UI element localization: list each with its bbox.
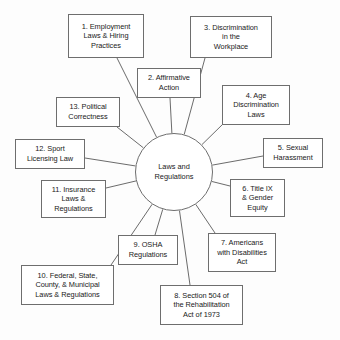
connector-line-5	[212, 156, 263, 165]
connector-line-6	[212, 181, 230, 186]
node-box-8[interactable]: 8. Section 504 of the Rehabilitation Act…	[160, 285, 243, 325]
node-box-7[interactable]: 7. Americans with Disabilities Act	[208, 233, 276, 272]
node-box-4[interactable]: 4. Age Discrimination Laws	[222, 85, 290, 125]
connector-line-7	[196, 204, 215, 233]
connector-line-8	[179, 211, 190, 285]
connector-line-13	[117, 127, 143, 148]
connector-line-2	[170, 98, 172, 133]
node-box-11[interactable]: 11. Insurance Laws & Regulations	[41, 180, 106, 218]
connector-line-9	[155, 209, 163, 235]
node-box-9[interactable]: 9. OSHA Regulations	[118, 235, 178, 265]
hub-node-laws-and-regulations[interactable]: Laws and Regulations	[135, 133, 213, 211]
connector-line-4	[202, 123, 224, 145]
node-box-3[interactable]: 3. Discrimination in the Workplace	[190, 16, 272, 58]
node-box-5[interactable]: 5. Sexual Harassment	[263, 138, 323, 168]
node-box-6[interactable]: 6. Title IX & Gender Equity	[230, 179, 285, 217]
connector-line-12	[85, 158, 135, 166]
radial-diagram: Laws and Regulations 1. Employment Laws …	[0, 0, 340, 340]
node-box-13[interactable]: 13. Political Correctness	[56, 97, 120, 127]
connector-line-11	[106, 181, 136, 188]
node-box-1[interactable]: 1. Employment Laws & Hiring Practices	[68, 14, 144, 58]
node-box-2[interactable]: 2. Affirmative Action	[137, 68, 201, 98]
node-box-12[interactable]: 12. Sport Licensing Law	[15, 139, 85, 169]
node-box-10[interactable]: 10. Federal, State, County, & Municipal …	[21, 265, 114, 305]
